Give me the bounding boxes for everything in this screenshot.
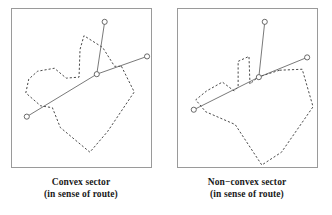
panel-convex-sector <box>11 8 152 168</box>
sector-boundary-dashed <box>26 36 134 153</box>
node-right <box>144 54 149 59</box>
node-center <box>94 72 99 77</box>
route-top-branch <box>259 22 265 77</box>
node-right <box>305 55 310 60</box>
convex-sector-diagram <box>12 9 151 167</box>
caption-line-1: Non−convex sector <box>208 177 287 187</box>
node-top <box>102 19 107 24</box>
figure-container: Convex sector (in sense of route) Non−co… <box>0 0 332 215</box>
caption-convex-sector: Convex sector (in sense of route) <box>6 176 156 200</box>
caption-line-2: (in sense of route) <box>6 188 156 200</box>
non-convex-sector-diagram <box>178 9 317 167</box>
node-left <box>24 114 29 119</box>
sector-boundary-dashed <box>196 56 313 165</box>
node-left <box>191 107 196 112</box>
node-top <box>262 19 267 24</box>
route-main-branch <box>27 56 147 116</box>
node-center <box>256 75 261 80</box>
route-top-branch <box>97 22 105 74</box>
caption-line-2: (in sense of route) <box>172 188 322 200</box>
panel-non-convex-sector <box>177 8 318 168</box>
route-main-branch <box>194 57 307 109</box>
caption-line-1: Convex sector <box>52 177 111 187</box>
caption-non-convex-sector: Non−convex sector (in sense of route) <box>172 176 322 200</box>
